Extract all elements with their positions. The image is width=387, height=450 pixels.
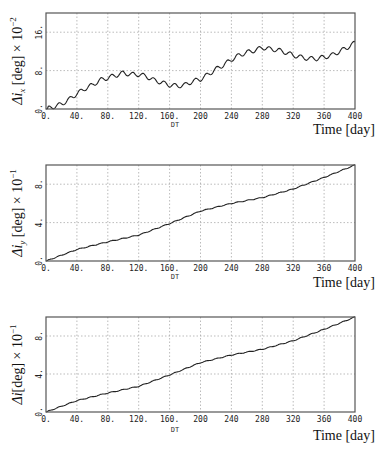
x-tick-label: 320 — [286, 112, 301, 121]
chart-panel-3: 0.40.80.120.160.2002402803203604000.4.8.… — [8, 317, 375, 443]
y-tick-label: 8. — [35, 66, 44, 76]
x-tick-label: 280 — [255, 264, 270, 273]
x-tick-label: 320 — [286, 415, 301, 424]
x-tick-label: 240 — [224, 415, 239, 424]
y-tick-label: 0. — [35, 104, 44, 114]
y-tick-label: 8. — [35, 179, 44, 189]
x-tick-label: 320 — [286, 264, 301, 273]
x-tick-label: 400 — [348, 415, 363, 424]
x-tick-label: 160. — [160, 415, 179, 424]
x-tick-label: 240 — [224, 264, 239, 273]
y-tick-label: 0. — [35, 256, 44, 266]
x-tick-label: 280 — [255, 415, 270, 424]
x-tick-label: 40. — [70, 112, 84, 121]
chart-panel-1: 0.40.80.120.160.2002402803203604000.8.16… — [8, 13, 375, 137]
x-tick-label: 200 — [193, 112, 208, 121]
x-tick-label: 360 — [317, 264, 332, 273]
y-tick-label: 16. — [35, 25, 44, 39]
y-axis-label: Δix [deg] × 10−2 — [8, 17, 27, 106]
x-tick-label: 200 — [193, 264, 208, 273]
x-tick-label: 80. — [101, 112, 115, 121]
x-tick-label: 360 — [317, 415, 332, 424]
chart-panel-2: 0.40.80.120.160.2002402803203604000.4.8.… — [8, 165, 375, 290]
x-tick-label: 40. — [70, 264, 84, 273]
x-tick-label: 360 — [317, 112, 332, 121]
x-axis-caption: DT — [171, 426, 180, 434]
y-tick-label: 0. — [35, 407, 44, 417]
y-axis-label: Δiy [deg] × 10−1 — [8, 169, 27, 258]
x-tick-label: 160. — [160, 112, 179, 121]
x-tick-label: 120. — [129, 415, 148, 424]
x-tick-label: 120. — [129, 112, 148, 121]
y-tick-label: 8. — [35, 331, 44, 341]
x-tick-label: 200 — [193, 415, 208, 424]
x-axis-label: Time [day] — [313, 428, 375, 443]
x-axis-label: Time [day] — [313, 122, 375, 137]
x-tick-label: 160. — [160, 264, 179, 273]
x-tick-label: 240 — [224, 112, 239, 121]
x-tick-label: 40. — [70, 415, 84, 424]
x-tick-label: 400 — [348, 112, 363, 121]
y-axis-label: Δi[deg] × 10−1 — [8, 324, 25, 405]
y-tick-label: 4. — [35, 218, 44, 228]
chart-figure: 0.40.80.120.160.2002402803203604000.8.16… — [0, 0, 387, 450]
y-tick-label: 4. — [35, 369, 44, 379]
x-tick-label: 120. — [129, 264, 148, 273]
x-tick-label: 280 — [255, 112, 270, 121]
x-tick-label: 80. — [101, 264, 115, 273]
x-axis-label: Time [day] — [313, 275, 375, 290]
x-axis-caption: DT — [171, 121, 180, 129]
x-tick-label: 400 — [348, 264, 363, 273]
x-tick-label: 80. — [101, 415, 115, 424]
x-axis-caption: DT — [171, 273, 180, 281]
